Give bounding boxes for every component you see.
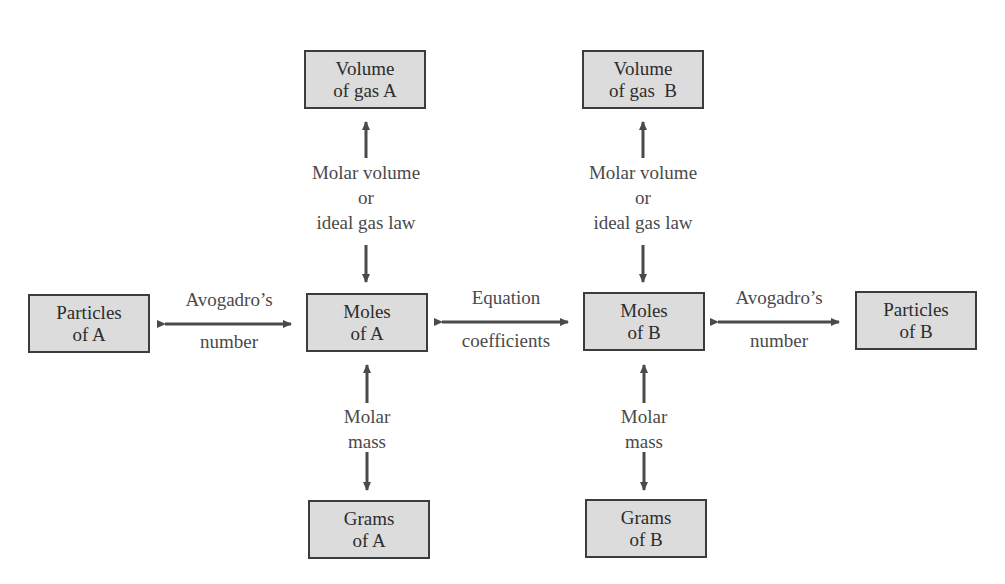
box-line2: of A <box>350 323 383 345</box>
label-equation-bottom: coefficients <box>445 328 567 353</box>
label-avogadro-b-bottom: number <box>718 328 840 353</box>
box-line2: of B <box>629 529 662 551</box>
label-line2: mass <box>594 429 694 454</box>
label-mass-b: Molar mass <box>594 404 694 454</box>
label-line1: Molar volume <box>286 160 446 185</box>
label-avogadro-a-bottom: number <box>168 329 290 354</box>
box-line1: Grams <box>621 507 672 529</box>
label-line1: Molar volume <box>563 160 723 185</box>
box-line1: Volume <box>614 58 673 80</box>
label-avogadro-a-top: Avogadro’s <box>168 287 290 312</box>
label-gas-b: Molar volume or ideal gas law <box>563 160 723 235</box>
box-line2: of A <box>72 324 105 346</box>
box-grams-of-a: Grams of A <box>308 500 430 559</box>
label-line2: mass <box>317 429 417 454</box>
box-line2: of B <box>899 321 932 343</box>
label-line1: Molar <box>594 404 694 429</box>
label-line1: Molar <box>317 404 417 429</box>
box-line2: of gas B <box>609 80 677 102</box>
box-line2: of A <box>352 530 385 552</box>
label-line2: or <box>286 185 446 210</box>
label-gas-a: Molar volume or ideal gas law <box>286 160 446 235</box>
box-particles-of-b: Particles of B <box>855 291 977 350</box>
box-moles-of-a: Moles of A <box>306 293 428 352</box>
label-line3: ideal gas law <box>563 210 723 235</box>
box-line2: of gas A <box>333 80 396 102</box>
label-line3: ideal gas law <box>286 210 446 235</box>
box-grams-of-b: Grams of B <box>585 499 707 558</box>
box-line1: Particles <box>883 299 948 321</box>
label-equation-top: Equation <box>445 285 567 310</box>
box-line1: Grams <box>344 508 395 530</box>
label-line2: or <box>563 185 723 210</box>
box-line1: Particles <box>56 302 121 324</box>
box-line1: Moles <box>620 300 668 322</box>
box-volume-of-gas-a: Volume of gas A <box>304 50 426 109</box>
box-volume-of-gas-b: Volume of gas B <box>582 50 704 109</box>
box-moles-of-b: Moles of B <box>583 292 705 351</box>
label-avogadro-b-top: Avogadro’s <box>718 285 840 310</box>
box-particles-of-a: Particles of A <box>28 294 150 353</box>
box-line1: Volume <box>336 58 395 80</box>
box-line2: of B <box>627 322 660 344</box>
label-mass-a: Molar mass <box>317 404 417 454</box>
box-line1: Moles <box>343 301 391 323</box>
